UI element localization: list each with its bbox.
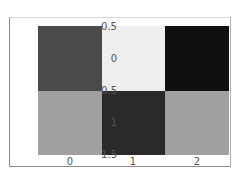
x-tick-label: 2 — [194, 157, 200, 167]
heatmap-cell-r0-c2 — [165, 26, 229, 91]
x-tick-label: 1 — [130, 157, 136, 167]
y-tick-label: 0.5 — [101, 86, 117, 96]
heatmap-plot-area — [38, 26, 229, 155]
y-tick-label: −0.5 — [93, 22, 117, 32]
y-tick-label: 1 — [111, 118, 117, 128]
y-tick-label: 0 — [111, 54, 117, 64]
x-tick-label: 0 — [67, 157, 73, 167]
y-tick-label: 1.5 — [101, 150, 117, 160]
heatmap-cell-r1-c2 — [165, 91, 229, 156]
heatmap-cell-r1-c0 — [38, 91, 102, 156]
heatmap-cell-r0-c0 — [38, 26, 102, 91]
